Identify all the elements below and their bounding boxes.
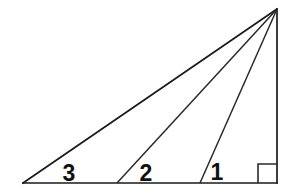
angle-label-1: 1 (211, 159, 224, 185)
triangle-diagram-canvas: 3 2 1 (0, 0, 291, 195)
angle-label-3: 3 (63, 160, 76, 186)
cevian-middle-line (117, 9, 277, 183)
angle-label-2: 2 (140, 160, 153, 186)
right-angle-icon (258, 164, 277, 183)
geometry-figure: 3 2 1 (0, 0, 291, 195)
